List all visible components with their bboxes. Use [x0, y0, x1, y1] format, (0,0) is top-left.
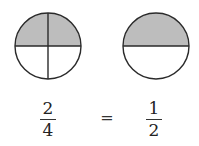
- denominator: 2: [142, 122, 166, 139]
- circle-two-quarters: [15, 13, 81, 79]
- fraction-one-half: 1 2: [142, 100, 166, 139]
- numerator: 1: [142, 100, 166, 117]
- circle-one-half: [123, 13, 189, 79]
- denominator: 4: [36, 122, 60, 139]
- numerator: 2: [36, 100, 60, 117]
- fraction-two-fourths: 2 4: [36, 100, 60, 139]
- equals-sign: =: [97, 108, 117, 127]
